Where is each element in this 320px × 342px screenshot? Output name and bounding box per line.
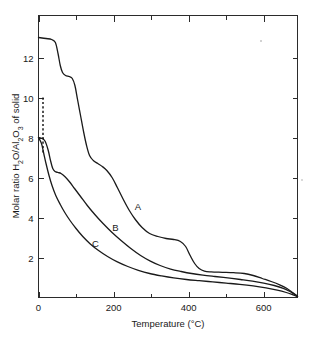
x-tick-label: 0: [36, 302, 41, 313]
curve-label-B: B: [112, 222, 118, 233]
scan-speck: [260, 40, 262, 42]
x-tick-label: 200: [106, 302, 122, 313]
chart-figure: 0200400600 24681012 ABC Temperature (°C)…: [0, 0, 320, 342]
y-tick-label: 2: [28, 253, 33, 264]
y-tick-label: 12: [23, 53, 34, 64]
y-tick-label: 4: [28, 213, 33, 224]
y-tick-label: 6: [28, 173, 33, 184]
y-tick-label: 8: [28, 133, 33, 144]
y-tick-label: 10: [23, 93, 34, 104]
curve-label-A: A: [135, 201, 142, 212]
curve-label-C: C: [92, 238, 99, 249]
x-tick-label: 600: [256, 302, 272, 313]
x-tick-label: 400: [181, 302, 197, 313]
x-axis-title: Temperature (°C): [132, 318, 205, 329]
scan-speck: [301, 179, 302, 180]
